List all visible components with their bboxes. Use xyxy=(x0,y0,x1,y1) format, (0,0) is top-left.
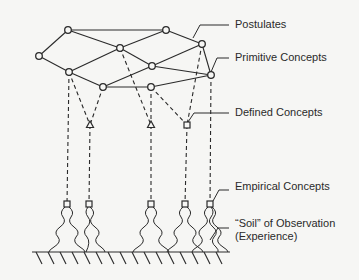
label-postulates: Postulates xyxy=(235,18,286,30)
observation-roots xyxy=(49,207,228,252)
theory-network-diagram xyxy=(0,0,359,280)
postulate-edges xyxy=(39,30,211,87)
primitive-concept-nodes xyxy=(36,27,215,91)
empirical-concept-nodes xyxy=(64,201,213,207)
ground-line xyxy=(32,252,230,264)
label-defined-concepts: Defined Concepts xyxy=(235,106,322,118)
label-soil-of-observation: “Soil” of Observation xyxy=(235,217,335,229)
label-experience: (Experience) xyxy=(235,230,297,242)
label-primitive-concepts: Primitive Concepts xyxy=(235,51,327,63)
defined-concept-nodes xyxy=(87,121,191,128)
label-empirical-concepts: Empirical Concepts xyxy=(235,180,330,192)
leader-lines xyxy=(188,25,229,240)
